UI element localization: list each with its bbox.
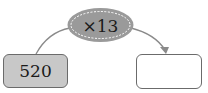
output-arrow (131, 28, 165, 50)
input-box: 520 (3, 54, 68, 88)
output-box[interactable] (136, 54, 202, 89)
operation-label: ×13 (68, 9, 133, 42)
input-connector (36, 28, 70, 54)
arrow-head-icon (160, 47, 169, 54)
